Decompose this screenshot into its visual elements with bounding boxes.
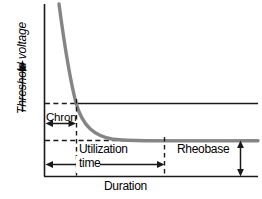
- y-axis-label: Threshold voltage: [16, 18, 28, 118]
- chronaxie-label: Chron: [46, 112, 76, 124]
- threshold-curve: [59, 4, 258, 141]
- rheobase-label: Rheobase: [177, 143, 229, 155]
- strength-duration-diagram: [0, 0, 262, 199]
- utilization-time-label-line1: Utilization: [79, 143, 128, 155]
- utilization-time-label-line2: time: [79, 157, 100, 169]
- x-axis-label: Duration: [104, 180, 147, 192]
- rheobase-measure-arrow: [237, 141, 244, 177]
- utilization-time-measure-arrow: [46, 156, 165, 173]
